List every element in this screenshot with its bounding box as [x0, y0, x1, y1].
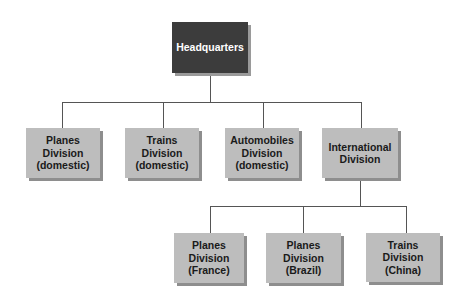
connector-trains-domestic	[163, 102, 164, 128]
connector-level1-bar	[62, 102, 362, 103]
node-label-line: Division	[283, 252, 324, 265]
node-trains-division-domestic: Trains Division (domestic)	[125, 128, 199, 178]
node-label-line: Division	[43, 147, 84, 160]
node-label-line: Trains	[388, 239, 419, 252]
node-label-line: Division	[242, 147, 283, 160]
connector-planes-brazil	[303, 206, 304, 233]
connector-international	[361, 102, 362, 128]
node-label-line: (domestic)	[235, 159, 288, 172]
node-label-line: Division	[142, 147, 183, 160]
node-label-line: Trains	[147, 134, 178, 147]
node-label-line: (Brazil)	[286, 264, 322, 277]
node-international-division: International Division	[322, 128, 398, 178]
connector-international-stem	[360, 180, 361, 207]
node-label-line: Division	[189, 252, 230, 265]
node-label-line: Division	[340, 153, 381, 166]
connector-root-stem	[210, 74, 211, 103]
node-label-line: Automobiles	[230, 134, 294, 147]
connector-planes-domestic	[62, 102, 63, 128]
node-headquarters: Headquarters	[172, 22, 248, 73]
connector-trains-china	[406, 206, 407, 233]
node-headquarters-label: Headquarters	[176, 41, 244, 54]
connector-planes-france	[210, 206, 211, 233]
node-label-line: International	[328, 141, 391, 154]
node-planes-division-domestic: Planes Division (domestic)	[26, 128, 100, 178]
connector-level2-bar	[210, 206, 407, 207]
node-automobiles-division-domestic: Automobiles Division (domestic)	[225, 128, 299, 178]
node-label-line: Planes	[192, 239, 226, 252]
node-label-line: Planes	[46, 134, 80, 147]
node-label-line: Division	[383, 251, 424, 264]
node-label-line: (China)	[385, 264, 421, 277]
node-label-line: (domestic)	[135, 159, 188, 172]
node-planes-division-brazil: Planes Division (Brazil)	[266, 233, 341, 283]
node-planes-division-france: Planes Division (France)	[174, 233, 244, 283]
node-label-line: (domestic)	[36, 159, 89, 172]
node-trains-division-china: Trains Division (China)	[366, 233, 440, 282]
node-label-line: (France)	[188, 264, 229, 277]
connector-automobiles-domestic	[263, 102, 264, 128]
node-label-line: Planes	[287, 239, 321, 252]
